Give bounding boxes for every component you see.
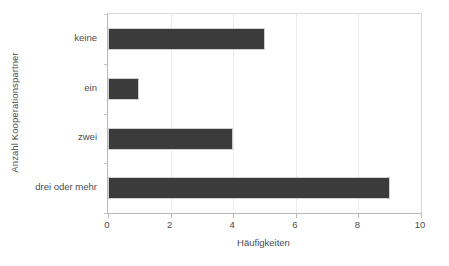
x-axis-tick [358, 213, 359, 218]
y-axis-tick [104, 163, 108, 164]
y-axis-tick-label: ein [0, 82, 97, 93]
bar-ein [108, 78, 139, 100]
x-axis-tick [296, 213, 297, 218]
x-axis-tick-label: 4 [217, 219, 247, 230]
x-axis-tick-label: 8 [342, 219, 372, 230]
x-axis-tick [108, 213, 109, 218]
x-axis-title: Häufigkeiten [107, 237, 420, 249]
x-axis-tick-label: 0 [92, 219, 122, 230]
bar-drei-oder-mehr [108, 177, 390, 199]
x-axis-tick-label: 10 [405, 219, 435, 230]
y-axis-tick-label: drei oder mehr [0, 181, 97, 192]
x-axis-tick [233, 213, 234, 218]
y-axis-tick [104, 114, 108, 115]
x-axis-tick-label: 2 [155, 219, 185, 230]
y-axis-tick [104, 64, 108, 65]
x-axis-tick [421, 213, 422, 218]
x-axis-tick [171, 213, 172, 218]
x-axis-tick-label: 6 [280, 219, 310, 230]
bar-zwei [108, 128, 233, 150]
y-axis-tick-label: keine [0, 32, 97, 43]
y-axis-tick [104, 14, 108, 15]
bar-keine [108, 28, 265, 50]
bar-chart: Anzahl Kooperationspartner keine ein zwe… [0, 0, 449, 266]
plot-area [107, 13, 422, 214]
y-axis-tick-label: zwei [0, 131, 97, 142]
